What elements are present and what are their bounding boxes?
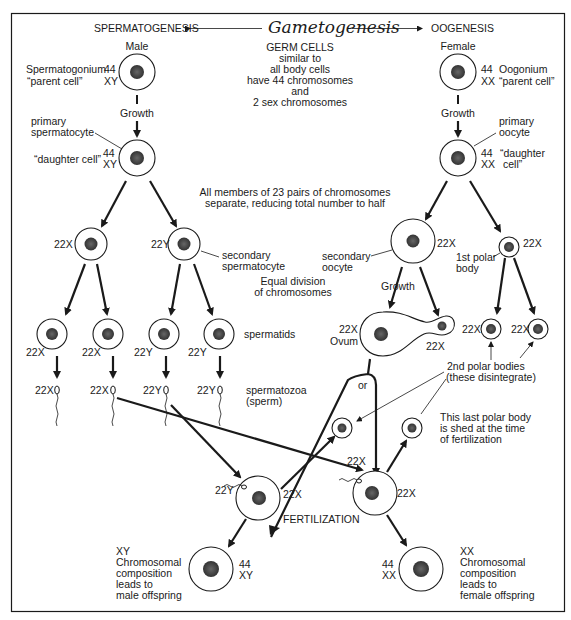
division-arrow xyxy=(150,181,176,226)
nucleus xyxy=(130,65,144,79)
spermatid-label: 22Y xyxy=(188,346,207,358)
secondary-oocyte-label-2: oocyte xyxy=(322,261,353,273)
nucleus xyxy=(203,561,219,577)
ovum-label: Ovum xyxy=(330,335,358,347)
spermatid-label: 22X xyxy=(82,346,101,358)
daughter-cell-label-2: cell” xyxy=(503,158,523,170)
fertilization-label: FERTILIZATION xyxy=(283,513,360,525)
second-polar-bodies-label-2: (these disintegrate) xyxy=(446,371,536,383)
spermatid-label: 22X xyxy=(26,346,45,358)
chromosome-label: 22X xyxy=(426,340,445,352)
growth-label: Growth xyxy=(120,107,154,119)
last-polar-body-note-3: of fertilization xyxy=(440,433,502,445)
parent-cell-label: “parent cell” xyxy=(499,75,555,87)
spermatids-label: spermatids xyxy=(244,328,295,340)
nucleus xyxy=(408,424,417,433)
division-arrow xyxy=(102,181,126,226)
secondary-spermatocyte-label-2: spermatocyte xyxy=(222,260,285,272)
sex-chromosomes: XY xyxy=(239,569,253,581)
sperm-tail xyxy=(339,479,357,482)
germ-cells-note: GERM CELLS similar to all body cells hav… xyxy=(247,41,353,108)
or-label: or xyxy=(358,379,368,391)
development-arrow xyxy=(229,519,246,546)
leader-line xyxy=(201,251,219,257)
nucleus xyxy=(130,151,144,165)
sperm-label: 22Y xyxy=(197,384,216,396)
nucleus xyxy=(365,486,379,500)
nucleus xyxy=(407,235,420,248)
chromosome-label: 22X xyxy=(437,237,456,249)
sex-chromosomes: XY xyxy=(103,158,117,170)
division-arrow xyxy=(470,181,500,231)
chromosome-label: 22Y xyxy=(151,238,170,250)
sperm-label-2: (sperm) xyxy=(246,395,282,407)
autosome-count: 44 xyxy=(104,63,116,75)
development-arrow xyxy=(387,515,406,545)
chromosome-label: 22X xyxy=(339,323,358,335)
nucleus xyxy=(451,65,465,79)
spermatids xyxy=(37,319,234,349)
svg-text:female offspring: female offspring xyxy=(460,589,535,601)
division-arrow xyxy=(426,181,447,219)
nucleus xyxy=(374,327,388,341)
nucleus xyxy=(338,424,347,433)
equal-division-note: Equal division of chromosomes xyxy=(254,275,332,298)
sperm-label: 22X xyxy=(90,384,109,396)
gametogenesis-diagram: SPERMATOGENESIS Gametogenesis OOGENESIS … xyxy=(0,0,571,620)
primary-spermatocyte-label-2: spermatocyte xyxy=(31,126,94,138)
polar-shed-arrow xyxy=(281,437,334,489)
sperm-path-y xyxy=(171,405,240,477)
arrowhead xyxy=(269,525,280,535)
spermatid-label: 22Y xyxy=(134,346,153,358)
autosome-count: 44 xyxy=(481,63,493,75)
chromosome-label: 22X xyxy=(462,323,481,335)
chromosome-label: 22X xyxy=(54,238,73,250)
nucleus xyxy=(85,238,98,251)
division-arrow xyxy=(420,267,438,315)
sperm-label: 22Y xyxy=(143,384,162,396)
division-arrow xyxy=(171,264,180,314)
leader-line xyxy=(371,250,392,256)
first-polar-body-label-2: body xyxy=(456,262,480,274)
sex-chromosomes: XX xyxy=(382,569,396,581)
pointer-line xyxy=(357,372,444,421)
chromosome-label: 22X xyxy=(397,487,416,499)
nucleus xyxy=(533,324,543,334)
nucleus xyxy=(413,561,429,577)
male-offspring-note: XY Chromosomal composition leads to male… xyxy=(116,545,182,601)
chromosome-label: 22X xyxy=(283,488,302,500)
chromosome-label: 22X xyxy=(511,323,530,335)
chromosome-label: 22Y xyxy=(215,484,234,496)
division-arrow xyxy=(97,264,107,314)
spermatogonium-label: Spermatogonium xyxy=(26,63,106,75)
division-arrow xyxy=(514,258,534,313)
chromosome-label: 22X xyxy=(347,455,366,467)
primary-oocyte-label-2: oocyte xyxy=(499,126,530,138)
sex-chromosomes: XX xyxy=(481,158,495,170)
female-offspring-note: XX Chromosomal composition leads to fema… xyxy=(460,545,535,601)
page-title: Gametogenesis xyxy=(268,17,400,37)
division-arrow xyxy=(66,264,85,314)
pointer-line xyxy=(520,342,533,358)
male-label: Male xyxy=(126,40,149,52)
reduction-note: All members of 23 pairs of chromosomes s… xyxy=(200,186,391,209)
sex-chromosomes: XY xyxy=(104,75,118,87)
sperm-head xyxy=(357,479,362,483)
nucleus xyxy=(451,151,465,165)
svg-text:male offspring: male offspring xyxy=(116,589,182,601)
nucleus xyxy=(178,238,191,251)
oogonium-label: Oogonium xyxy=(499,63,548,75)
sperm-path-x xyxy=(117,398,362,470)
pointer-line xyxy=(421,379,446,414)
female-label: Female xyxy=(440,40,475,52)
oogenesis-label: OOGENESIS xyxy=(431,22,494,34)
svg-text:of chromosomes: of chromosomes xyxy=(254,286,332,298)
division-arrow xyxy=(497,258,505,313)
nucleus xyxy=(486,324,496,334)
parent-cell-label: “parent cell” xyxy=(27,75,83,87)
sex-chromosomes: XX xyxy=(481,75,495,87)
leader-line xyxy=(474,133,496,146)
chromosome-label: 22X xyxy=(523,237,542,249)
sperm-head xyxy=(242,485,247,489)
nucleus xyxy=(252,491,266,505)
